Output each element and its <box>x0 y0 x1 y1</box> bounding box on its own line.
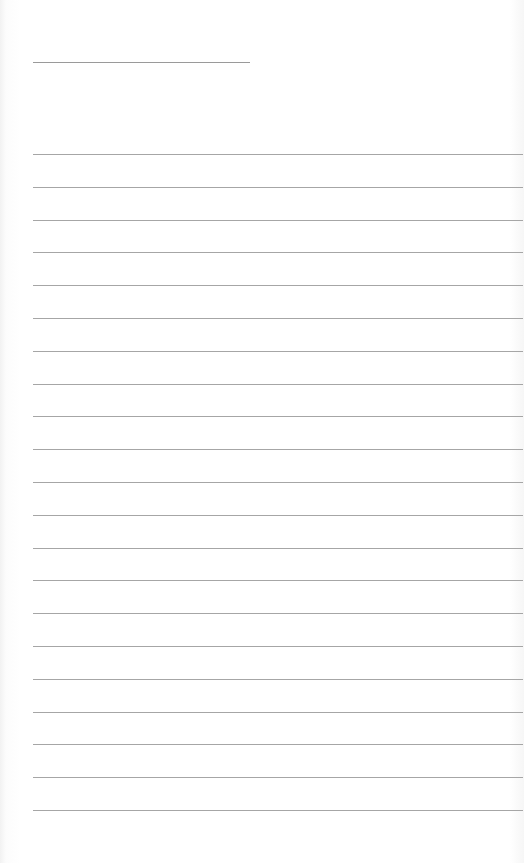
ruled-line <box>33 318 523 319</box>
ruled-line <box>33 580 523 581</box>
ruled-line <box>33 712 523 713</box>
ruled-line <box>33 515 523 516</box>
ruled-line <box>33 679 523 680</box>
ruled-line <box>33 810 523 811</box>
ruled-line <box>33 220 523 221</box>
ruled-line <box>33 187 523 188</box>
ruled-line <box>33 416 523 417</box>
ruled-line <box>33 384 523 385</box>
ruled-line <box>33 154 523 155</box>
ruled-line <box>33 351 523 352</box>
ruled-line <box>33 252 523 253</box>
ruled-line <box>33 548 523 549</box>
lined-paper-page <box>0 0 524 863</box>
ruled-line <box>33 777 523 778</box>
ruled-line <box>33 613 523 614</box>
ruled-line <box>33 646 523 647</box>
ruled-line <box>33 744 523 745</box>
header-write-line <box>33 62 250 63</box>
ruled-line <box>33 285 523 286</box>
ruled-line <box>33 482 523 483</box>
ruled-line <box>33 449 523 450</box>
